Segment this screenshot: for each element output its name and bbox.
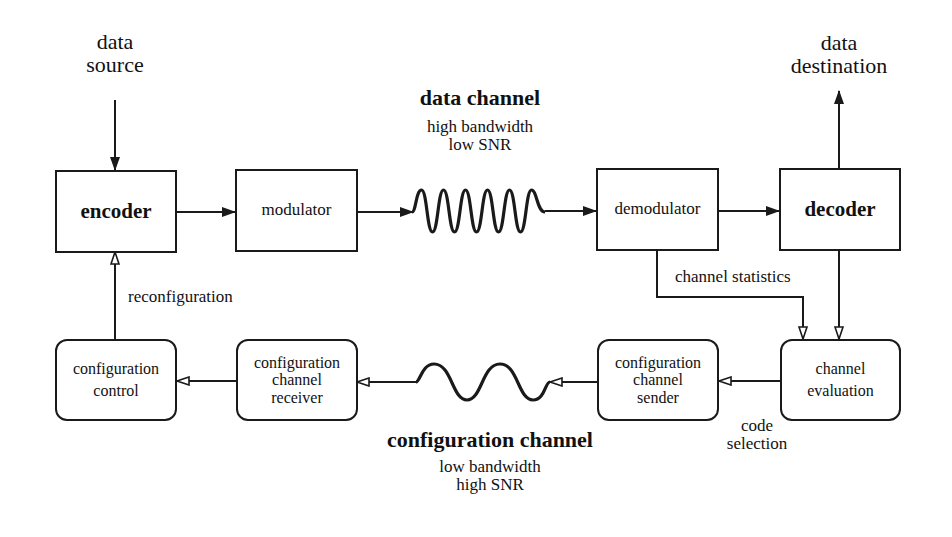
- encoder-block: encoder: [55, 170, 177, 253]
- config-channel-wave-icon: [416, 364, 550, 400]
- configuration-control-block: configuration control: [55, 339, 177, 421]
- data-destination-label: data destination: [774, 31, 904, 77]
- modulator-label: modulator: [262, 201, 332, 220]
- demodulator-label: demodulator: [615, 200, 701, 219]
- channel-evaluation-block: channel evaluation: [780, 339, 901, 421]
- configuration-channel-sender-block: configuration channel sender: [597, 339, 719, 421]
- data-channel-title: data channel: [380, 86, 580, 109]
- configuration-channel-subtitle: low bandwidth high SNR: [390, 458, 590, 494]
- modulator-block: modulator: [235, 169, 358, 252]
- configuration-control-label: configuration control: [73, 358, 159, 401]
- encoder-label: encoder: [80, 200, 151, 223]
- channel-statistics-arrow: [657, 250, 803, 339]
- reconfiguration-label: reconfiguration: [128, 288, 268, 306]
- data-channel-subtitle: high bandwidth low SNR: [380, 118, 580, 154]
- channel-statistics-label: channel statistics: [675, 268, 825, 286]
- decoder-block: decoder: [779, 168, 901, 251]
- data-channel-wave-icon: [412, 190, 545, 232]
- configuration-channel-receiver-label: configuration channel receiver: [254, 354, 340, 407]
- configuration-channel-sender-label: configuration channel sender: [615, 354, 701, 407]
- configuration-channel-receiver-block: configuration channel receiver: [236, 339, 358, 421]
- data-source-label: data source: [65, 30, 165, 76]
- decoder-label: decoder: [804, 198, 875, 221]
- code-selection-label: code selection: [712, 417, 802, 453]
- demodulator-block: demodulator: [596, 168, 719, 251]
- channel-evaluation-label: channel evaluation: [807, 358, 874, 401]
- configuration-channel-title: configuration channel: [340, 428, 640, 451]
